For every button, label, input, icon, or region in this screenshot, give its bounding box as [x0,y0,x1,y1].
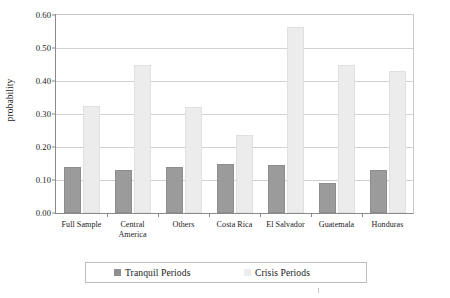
legend-entry-crisis-periods: Crisis Periods [244,263,310,282]
bar-crisis-periods [185,107,202,213]
bar-tranquil-periods [115,170,132,213]
x-tick-mark [260,213,261,217]
x-tick-mark [209,213,210,217]
y-tick-label: 0.60 [36,10,51,20]
x-category-label: Central America [107,220,158,239]
bar-crisis-periods [236,135,253,213]
bars-layer [56,15,413,213]
y-tick-label: 0.30 [36,109,51,119]
x-tick-mark [311,213,312,217]
legend-swatch-icon-tranquil-periods [114,269,121,276]
x-tick-mark [362,213,363,217]
bar-group [209,15,260,213]
bar-crisis-periods [134,65,151,214]
bar-crisis-periods [83,106,100,213]
y-tick-label: 0.20 [36,142,51,152]
bar-group [260,15,311,213]
bar-tranquil-periods [370,170,387,213]
bar-group [158,15,209,213]
bar-group [107,15,158,213]
bar-group [362,15,413,213]
legend-entry-tranquil-periods: Tranquil Periods [114,263,190,282]
x-category-label: Honduras [362,220,413,230]
x-category-label: El Salvador [260,220,311,230]
y-tick-label: 0.10 [36,175,51,185]
y-tick-label: 0.50 [36,43,51,53]
y-tick-label: 0.00 [36,208,51,218]
chart-legend: Tranquil Periods Crisis Periods [85,262,367,283]
x-category-label: Costa Rica [209,220,260,230]
scan-artifact-mark [318,288,319,293]
bar-group [311,15,362,213]
x-category-label: Full Sample [56,220,107,230]
bar-tranquil-periods [64,167,81,213]
bar-tranquil-periods [268,165,285,213]
legend-label-tranquil-periods: Tranquil Periods [125,267,190,278]
x-category-label: Guatemala [311,220,362,230]
legend-label-crisis-periods: Crisis Periods [255,267,310,278]
y-tick-label: 0.40 [36,76,51,86]
plot-area: 0.000.100.200.300.400.500.60 Full Sample… [55,14,414,214]
y-axis-title: probability [5,60,15,140]
x-category-label: Others [158,220,209,230]
bar-crisis-periods [287,27,304,213]
bar-crisis-periods [389,71,406,213]
x-tick-mark [158,213,159,217]
x-tick-mark [107,213,108,217]
bar-tranquil-periods [319,183,336,213]
bar-chart-figure: probability 0.000.100.200.300.400.500.60… [0,0,450,298]
bar-tranquil-periods [217,164,234,214]
bar-crisis-periods [338,65,355,214]
bar-tranquil-periods [166,167,183,213]
legend-swatch-icon-crisis-periods [244,269,251,276]
bar-group [56,15,107,213]
